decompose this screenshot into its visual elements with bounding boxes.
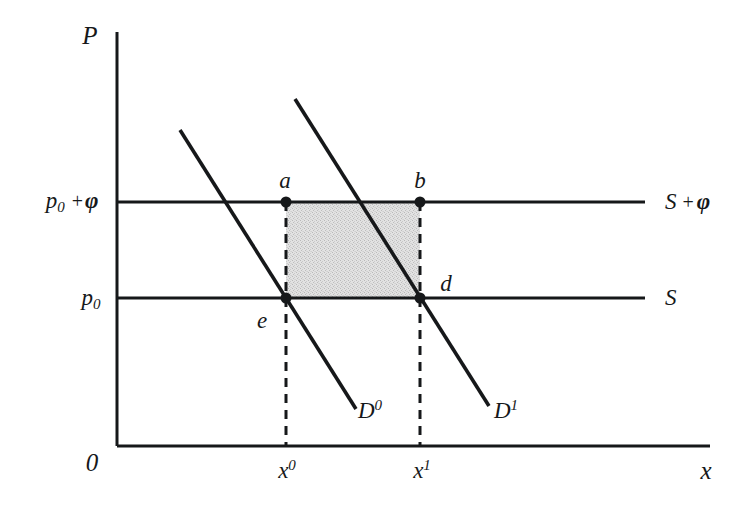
demand-label-base: D (494, 398, 511, 423)
price-tick-subscript: 0 (57, 199, 65, 215)
quantity-tick-x1: x1 (413, 459, 431, 482)
x-axis-label: x (700, 458, 711, 483)
point-label-b: b (414, 169, 426, 192)
supply-label-base: S (665, 189, 677, 214)
point-a-marker (281, 197, 292, 208)
tax-revenue-shaded-region (286, 203, 420, 298)
price-tick-term: φ (85, 188, 98, 213)
point-label-e: e (257, 309, 267, 332)
point-e-marker (281, 293, 292, 304)
demand-label-base: D (358, 398, 375, 423)
demand-label-superscript: 0 (375, 396, 383, 412)
supply-label-operator: + (683, 191, 694, 213)
demand-label-superscript: 1 (511, 396, 519, 412)
price-tick-base: p (46, 188, 58, 213)
supply-label: S (665, 286, 677, 309)
point-label-d: d (440, 272, 452, 295)
origin-label: 0 (86, 450, 99, 475)
y-axis-label: P (82, 23, 97, 48)
supply-label-term: φ (697, 189, 710, 214)
point-label-a: a (279, 169, 291, 192)
price-tick-base: p (82, 285, 94, 310)
supply-demand-figure: P x 0 p0+φ p0 x0 x1 S+φ S D0 D1 a b d e (0, 0, 748, 511)
quantity-tick-x0: x0 (278, 459, 296, 482)
point-d-marker (415, 293, 426, 304)
demand-curve-1-label: D1 (494, 399, 518, 422)
price-tick-operator: + (72, 190, 83, 212)
quantity-tick-superscript: 0 (288, 456, 296, 472)
supply-plus-tax-label: S+φ (665, 190, 710, 213)
quantity-tick-base: x (278, 458, 288, 483)
quantity-tick-superscript: 1 (423, 456, 431, 472)
price-tick-p0: p0 (82, 286, 101, 309)
demand-curve-0-label: D0 (358, 399, 382, 422)
quantity-tick-base: x (413, 458, 423, 483)
point-b-marker (415, 197, 426, 208)
price-tick-p0-plus-phi: p0+φ (46, 189, 99, 212)
diagram-canvas (0, 0, 748, 511)
price-tick-subscript: 0 (93, 296, 101, 312)
supply-label-base: S (665, 285, 677, 310)
